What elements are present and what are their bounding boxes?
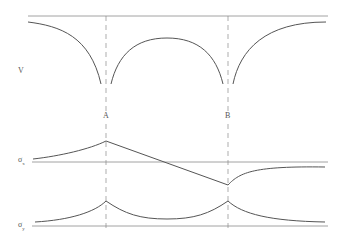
- sigma-x-label: σx: [18, 155, 25, 166]
- point-b-label: B: [225, 111, 230, 120]
- point-a-label: A: [103, 111, 109, 120]
- sigma-y-label: σy: [18, 220, 25, 231]
- v-curve-left: [28, 22, 101, 84]
- diagram-canvas: [0, 0, 344, 242]
- sigma-y-curve: [35, 201, 325, 222]
- v-curve-middle: [111, 38, 223, 84]
- v-curve-right: [233, 22, 326, 84]
- sigma-x-curve: [33, 141, 325, 185]
- v-label: V: [18, 66, 24, 75]
